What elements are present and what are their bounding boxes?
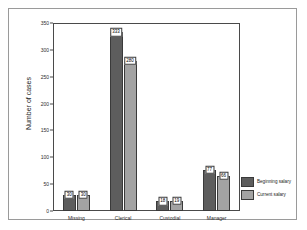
bar-value-label: 77 xyxy=(205,165,214,174)
legend-label: Beginning salary xyxy=(257,180,291,185)
legend-label: Current salary xyxy=(257,193,286,198)
bar-value-label: 18 xyxy=(158,197,167,206)
bar-value-label: 30 xyxy=(65,191,74,200)
legend-item[interactable]: Current salary xyxy=(241,190,303,200)
legend-item[interactable]: Beginning salary xyxy=(241,177,303,187)
bar-group: 1819 xyxy=(147,23,194,211)
bar-value-label: 280 xyxy=(124,56,136,65)
chart-frame: Number of cases 050100150200250300350 30… xyxy=(8,8,297,220)
bar[interactable]: 30 xyxy=(63,195,76,211)
bar-group: 333280 xyxy=(100,23,147,211)
plot-area: 050100150200250300350 303033328018197766… xyxy=(53,23,240,211)
bar-group: 3030 xyxy=(53,23,100,211)
x-tick-label: Custodial xyxy=(159,215,180,221)
x-tick-label: Missing xyxy=(68,215,85,221)
y-axis-title: Number of cases xyxy=(23,9,33,197)
legend-swatch xyxy=(241,177,254,187)
bar-group: 7766 xyxy=(193,23,240,211)
bar[interactable]: 77 xyxy=(203,170,216,211)
bar-value-label: 333 xyxy=(110,28,122,37)
bar[interactable]: 66 xyxy=(217,176,230,211)
bar[interactable]: 19 xyxy=(170,201,183,211)
x-tick-label: Manager xyxy=(207,215,227,221)
chart-legend: Beginning salaryCurrent salary xyxy=(241,177,303,203)
bar[interactable]: 280 xyxy=(124,61,137,211)
bar-value-label: 66 xyxy=(219,171,228,180)
x-tick-label: Clerical xyxy=(115,215,132,221)
bar[interactable]: 333 xyxy=(110,32,123,211)
bar[interactable]: 18 xyxy=(156,201,169,211)
legend-swatch xyxy=(241,190,254,200)
bar-value-label: 19 xyxy=(172,197,181,206)
bar[interactable]: 30 xyxy=(77,195,90,211)
bar-value-label: 30 xyxy=(79,191,88,200)
